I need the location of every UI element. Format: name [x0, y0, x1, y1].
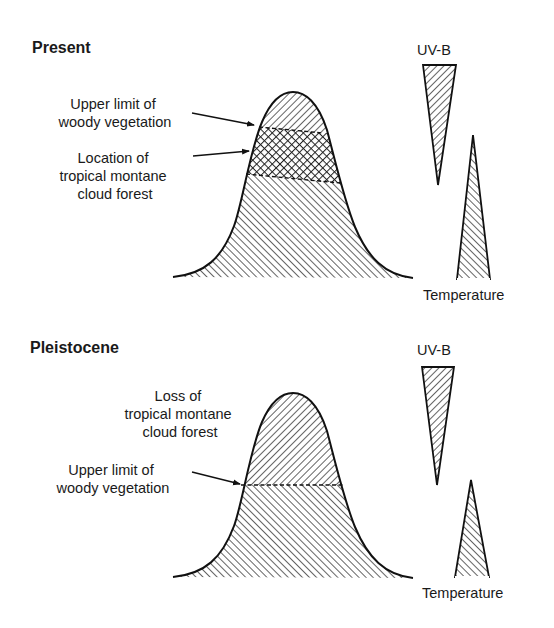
temperature-wedge-pleistocene: [455, 480, 489, 577]
uvb-label-present: UV-B: [417, 42, 451, 58]
panel-title-present: Present: [32, 39, 91, 56]
panel-pleistocene: Pleistocene Loss of tropical montane clo…: [30, 339, 503, 601]
temperature-label-present: Temperature: [423, 287, 504, 303]
label-cloud-forest-loss: Loss of tropical montane cloud forest: [124, 388, 235, 440]
uvb-wedge-present: [423, 65, 456, 185]
uvb-wedge-pleistocene: [422, 367, 454, 485]
uvb-label-pleistocene: UV-B: [417, 342, 451, 358]
label-cloud-forest-location: Location of tropical montane cloud fores…: [59, 150, 170, 202]
mountain-present: [150, 60, 440, 290]
panel-title-pleistocene: Pleistocene: [30, 339, 119, 356]
label-upper-limit: Upper limit of woody vegetation: [56, 462, 170, 496]
temperature-label-pleistocene: Temperature: [422, 585, 503, 601]
summit-zone-hatch: [150, 60, 440, 134]
arrow-upper-limit: [192, 113, 254, 125]
figure-canvas: Present Upper limit of woody vegetation …: [0, 0, 554, 628]
temperature-wedge-present: [457, 135, 490, 279]
arrow-cloud-forest: [193, 151, 249, 156]
arrow-upper-limit: [192, 472, 240, 484]
panel-present: Present Upper limit of woody vegetation …: [32, 39, 504, 303]
label-upper-limit: Upper limit of woody vegetation: [58, 96, 172, 130]
